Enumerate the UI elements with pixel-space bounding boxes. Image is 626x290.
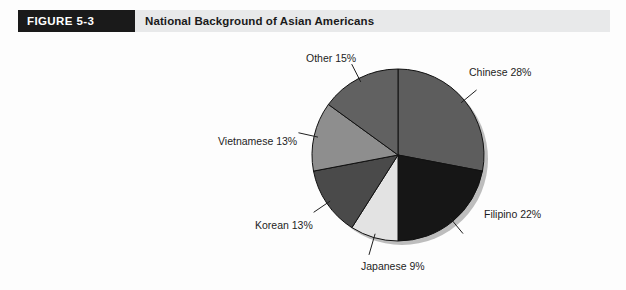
pie-slice-chinese bbox=[398, 69, 484, 171]
pie-chart-figure: Other 15% Chinese 28% Filipino 22% Japan… bbox=[0, 34, 626, 290]
figure-number-tag: FIGURE 5-3 bbox=[18, 10, 135, 32]
pie-label-japanese: Japanese 9% bbox=[361, 260, 425, 272]
pie-label-korean: Korean 13% bbox=[255, 219, 313, 231]
leader-line-chinese bbox=[461, 90, 476, 103]
figure-header-band: FIGURE 5-3 National Background of Asian … bbox=[18, 10, 610, 32]
pie-label-vietnamese: Vietnamese 13% bbox=[218, 135, 297, 147]
pie-label-chinese: Chinese 28% bbox=[469, 66, 531, 78]
pie-chart-svg bbox=[0, 34, 626, 290]
pie-label-other: Other 15% bbox=[306, 52, 356, 64]
figure-title: National Background of Asian Americans bbox=[145, 10, 374, 32]
pie-label-filipino: Filipino 22% bbox=[484, 208, 541, 220]
leader-line-korean bbox=[314, 201, 331, 212]
pie-slice-group bbox=[312, 69, 484, 241]
